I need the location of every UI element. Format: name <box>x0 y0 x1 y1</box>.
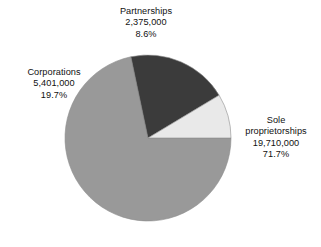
pie-label-sole-proprietorships-name2: proprietorships <box>232 126 320 137</box>
pie-label-sole-proprietorships-value: 19,710,000 <box>232 138 320 149</box>
pie-label-partnerships-name: Partnerships <box>83 6 209 17</box>
pie-label-partnerships-percent: 8.6% <box>83 29 209 40</box>
pie-label-sole-proprietorships-percent: 71.7% <box>232 149 320 160</box>
pie-label-sole-proprietorships-name: Sole <box>232 115 320 126</box>
pie-label-corporations-name: Corporations <box>2 67 106 78</box>
pie-label-corporations: Corporations 5,401,000 19.7% <box>2 67 106 101</box>
pie-chart-figure: Partnerships 2,375,000 8.6% Corporations… <box>0 0 321 247</box>
pie-label-corporations-percent: 19.7% <box>2 90 106 101</box>
pie-label-partnerships: Partnerships 2,375,000 8.6% <box>83 6 209 40</box>
pie-label-partnerships-value: 2,375,000 <box>83 17 209 28</box>
pie-label-sole-proprietorships: Sole proprietorships 19,710,000 71.7% <box>232 115 320 161</box>
pie-label-corporations-value: 5,401,000 <box>2 78 106 89</box>
